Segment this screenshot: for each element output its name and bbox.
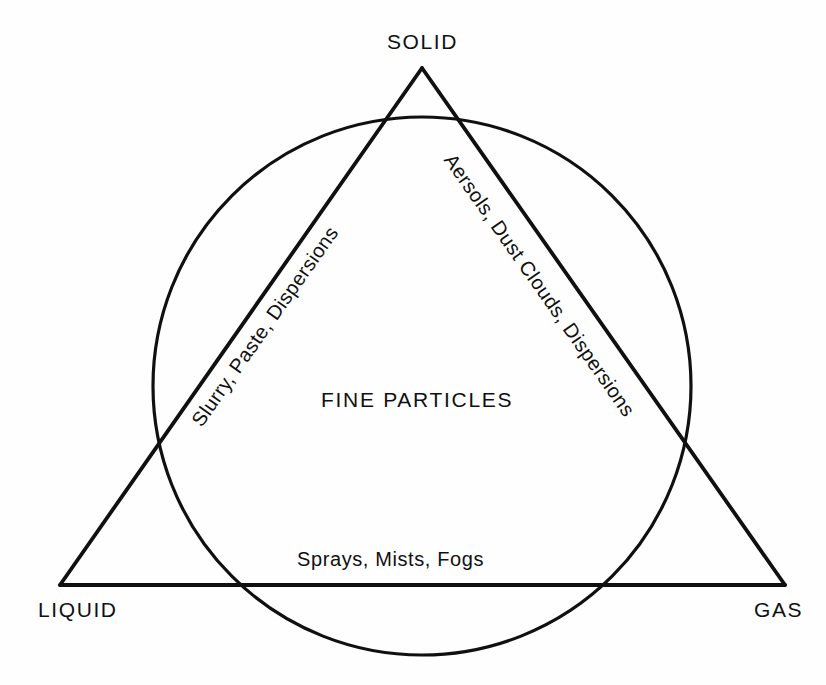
- solid-gas-edge-line: [422, 68, 785, 585]
- solid-liquid-edge-line: [60, 68, 422, 585]
- fine-particles-diagram: SOLID LIQUID GAS FINE PARTICLES Slurry, …: [0, 0, 826, 685]
- diagram-canvas: [0, 0, 826, 685]
- vertex-label-gas: GAS: [754, 599, 803, 620]
- vertex-label-liquid: LIQUID: [38, 599, 118, 620]
- center-label-fine-particles: FINE PARTICLES: [321, 389, 513, 410]
- edge-label-sprays-mists-fogs: Sprays, Mists, Fogs: [297, 549, 484, 569]
- vertex-label-solid: SOLID: [387, 31, 458, 52]
